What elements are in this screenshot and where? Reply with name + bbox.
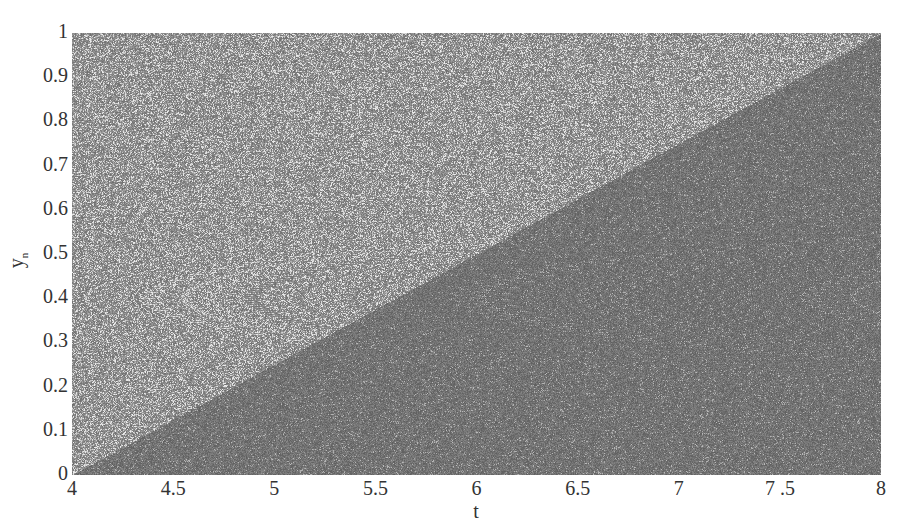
x-tick-label: 7 [674, 478, 684, 498]
y-tick-label: 1 [58, 21, 68, 41]
x-tick-label: 5 [269, 478, 279, 498]
chart-figure: 00.10.20.30.40.50.60.70.80.91 44.555.566… [0, 0, 902, 532]
y-tick-label: 0.1 [43, 419, 68, 439]
y-tick-label: 0.9 [43, 65, 68, 85]
y-tick-label: 0.5 [43, 242, 68, 262]
x-tick-label: 5.5 [363, 478, 388, 498]
y-tick-label: 0.2 [43, 375, 68, 395]
x-tick-label: 4 [67, 478, 77, 498]
y-tick-label: 0.4 [43, 286, 68, 306]
y-tick-label: 0.7 [43, 154, 68, 174]
x-tick-label: 6.5 [565, 478, 590, 498]
y-tick-label: 0.3 [43, 330, 68, 350]
plot-area [72, 33, 881, 475]
y-tick-label: 0.8 [43, 109, 68, 129]
x-tick-label: 4.5 [161, 478, 186, 498]
x-tick-label: 8 [876, 478, 886, 498]
x-axis-label: t [473, 500, 479, 523]
y-axis-label: yn [5, 253, 30, 269]
y-tick-label: 0.6 [43, 198, 68, 218]
x-tick-label: 6 [472, 478, 482, 498]
x-tick-label: 7 .5 [765, 478, 795, 498]
scatter-canvas [72, 33, 881, 475]
